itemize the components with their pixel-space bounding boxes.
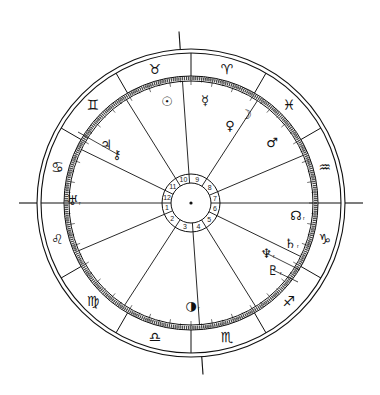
sign-glyph-virgo: ♍ (87, 293, 100, 309)
retrograde-marker: r (297, 243, 299, 249)
planet-saturn: ♄ (284, 236, 296, 251)
house-cusp-line (125, 227, 176, 305)
sign-glyph-libra: ♎ (149, 329, 162, 345)
sign-divider (255, 73, 267, 93)
retrograde-marker: r (198, 305, 200, 311)
sign-glyph-leo: ♌ (51, 231, 64, 247)
sign-glyph-pisces: ♓ (283, 97, 296, 113)
sign-divider (116, 73, 128, 93)
planet-moon: ☽ (240, 107, 252, 122)
sign-glyph-cancer: ♋ (51, 159, 64, 175)
house-cusp-line (206, 228, 255, 307)
center-dot (189, 201, 192, 204)
sign-glyph-aquarius: ♒ (318, 159, 331, 175)
sign-glyph-taurus: ♉ (149, 61, 162, 77)
house-number: 10 (180, 176, 188, 183)
house-number: 8 (208, 184, 212, 191)
sign-glyph-aries: ♈ (221, 61, 234, 77)
axis-extension (202, 357, 203, 375)
sign-divider (61, 128, 81, 140)
sign-glyph-scorpio: ♏ (221, 329, 234, 345)
planet-uranus: ♅ (66, 193, 78, 208)
axis-extension (179, 31, 180, 49)
sign-divider (301, 267, 321, 279)
house-cusp-line (126, 100, 175, 179)
house-cusp-line (218, 155, 304, 191)
planet-sun: ☉ (161, 94, 173, 109)
sign-divider (61, 267, 81, 279)
planet-mars: ♂ (266, 135, 278, 150)
house-number: 3 (183, 223, 187, 230)
planet-jupiter: ♃ (100, 137, 112, 152)
house-number: 4 (197, 223, 201, 230)
house-cusp-line (79, 214, 165, 250)
sign-glyph-capricorn: ♑ (318, 231, 331, 247)
planet-venus: ♀ (225, 118, 235, 133)
sign-divider (301, 128, 321, 140)
planet-lilith-moon-phase: ◑ (185, 298, 196, 313)
house-number: 7 (213, 195, 217, 202)
sign-divider (116, 313, 128, 333)
house-cusp-line (182, 81, 188, 174)
house-number: 12 (163, 194, 171, 201)
retrograde-marker: r (273, 253, 275, 259)
sign-glyph-sagittarius: ♐ (283, 293, 296, 309)
house-cusp-line (81, 150, 165, 191)
sign-glyph-gemini: ♊ (87, 97, 100, 113)
sign-divider (255, 313, 267, 333)
house-number: 11 (169, 183, 176, 190)
natal-chart-wheel: ♈♉♊♋♌♍♎♏♐♑♒♓ 123456789101112 ☉☿☽♀♂♃⚷♅r☊r… (0, 0, 380, 395)
house-number: 2 (170, 215, 174, 222)
house-number: 5 (207, 216, 211, 223)
house-number: 1 (165, 204, 169, 211)
retrograde-marker: r (303, 215, 305, 221)
planet-north-node: ☊ (290, 208, 302, 223)
planet-mercury: ☿ (201, 93, 209, 108)
house-number: 9 (195, 176, 199, 183)
house-number: 6 (213, 205, 217, 212)
retrograde-marker: r (280, 270, 282, 276)
